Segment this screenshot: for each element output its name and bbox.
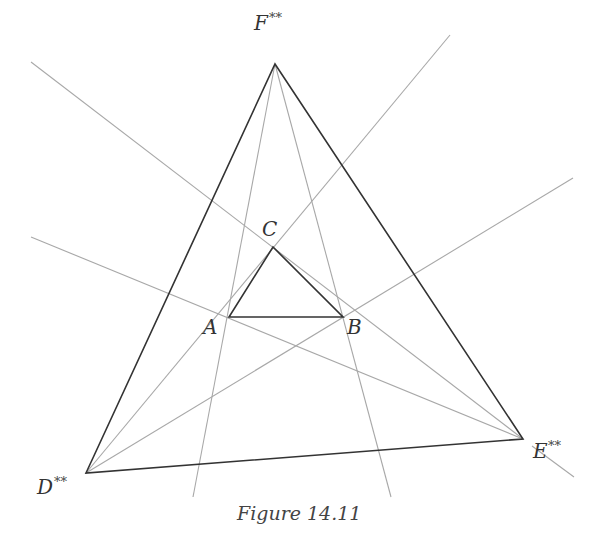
geometry-diagram: F ** D ** E ** A B C Figure 14.11 (0, 0, 604, 555)
svg-text:**: ** (54, 474, 68, 489)
line-from-right (86, 178, 573, 473)
line-f-right-down (275, 64, 391, 497)
label-e: E ** (532, 438, 562, 463)
line-from-left (31, 237, 523, 439)
label-a: A (201, 315, 217, 339)
svg-text:D: D (36, 475, 53, 499)
figure-caption: Figure 14.11 (236, 502, 361, 524)
label-d: D ** (36, 474, 68, 499)
svg-text:**: ** (269, 10, 283, 25)
label-b: B (346, 315, 362, 339)
svg-text:F: F (253, 11, 269, 35)
line-f-left-down (193, 64, 275, 497)
svg-text:**: ** (548, 438, 562, 453)
svg-text:E: E (532, 439, 548, 463)
label-c: C (262, 217, 277, 241)
label-f: F ** (253, 10, 283, 35)
